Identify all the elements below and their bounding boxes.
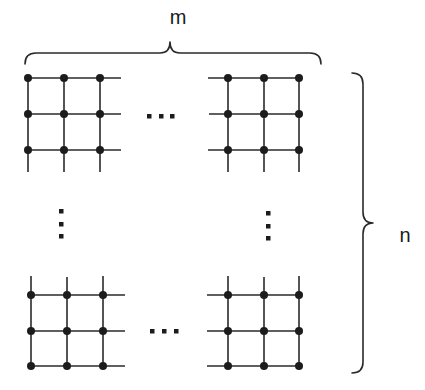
label-m: m (170, 6, 187, 28)
grid-block-top-left (24, 74, 121, 172)
horizontal-ellipsis-top (147, 114, 175, 119)
label-n: n (399, 224, 410, 246)
vertical-ellipsis-left (59, 209, 64, 239)
grid-graph-diagram: m n (0, 0, 425, 390)
grid-block-top-right (208, 74, 303, 172)
grid-block-bottom-right (207, 276, 303, 370)
horizontal-ellipsis-bottom (150, 329, 179, 334)
grid-block-bottom-left (27, 276, 125, 370)
brace-n (352, 73, 373, 373)
vertical-ellipsis-right (266, 211, 271, 241)
brace-m (25, 42, 321, 64)
